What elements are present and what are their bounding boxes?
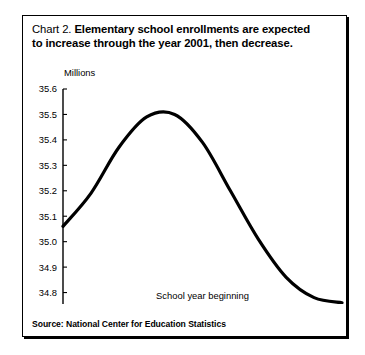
data-series-line — [63, 112, 342, 303]
chart-title-main-2: to increase through the year 2001, then … — [32, 37, 338, 51]
y-tick-label: 35.3 — [39, 160, 57, 171]
y-tick-label: 35.6 — [39, 83, 57, 94]
axis-lines — [63, 89, 342, 304]
enrollment-line-chart: Millions 35.635.535.435.335.235.135.034.… — [23, 56, 348, 304]
y-axis-tick-labels: 35.635.535.435.335.235.135.034.934.834.7 — [39, 83, 57, 304]
y-tick-label: 35.2 — [39, 185, 57, 196]
y-tick-label: 34.8 — [39, 287, 57, 298]
y-tick-label: 35.4 — [39, 134, 57, 145]
chart-number-label: Chart 2. — [32, 23, 71, 35]
y-tick-label: 35.1 — [39, 211, 57, 222]
source-note: Source: National Center for Education St… — [32, 319, 226, 329]
y-tick-label: 35.0 — [39, 236, 57, 247]
x-axis-title: School year beginning — [156, 290, 249, 301]
chart-figure: Chart 2. Elementary school enrollments a… — [22, 15, 347, 337]
y-tick-label: 34.9 — [39, 262, 57, 273]
chart-title-line-1: Chart 2. Elementary school enrollments a… — [32, 23, 338, 37]
chart-title-main-1: Elementary school enrollments are expect… — [74, 23, 310, 35]
chart-title: Chart 2. Elementary school enrollments a… — [23, 16, 346, 54]
plot-area: Millions 35.635.535.435.335.235.135.034.… — [23, 56, 348, 304]
y-axis-units-label: Millions — [64, 67, 96, 78]
y-tick-label: 35.5 — [39, 109, 57, 120]
